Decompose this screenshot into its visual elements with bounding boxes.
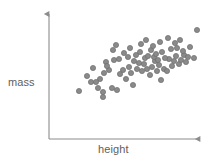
scatter-point [93,79,98,84]
scatter-point [110,47,115,52]
scatter-point [88,79,93,84]
scatter-point [109,85,114,90]
scatter-point [134,66,139,71]
scatter-point [171,58,176,63]
scatter-point [173,53,178,58]
scatter-point [95,85,100,90]
scatter-point [123,76,128,81]
scatter-point [154,68,159,73]
scatter-point [114,87,119,92]
scatter-point [183,59,188,64]
scatter-point [149,64,154,69]
scatter-point [139,68,144,73]
scatter-point [131,58,136,63]
scatter-point [194,27,199,32]
scatter-point [162,55,167,60]
scatter-point [126,64,131,69]
scatter-point [125,54,130,59]
scatter-point [90,65,95,70]
scatter-point [128,70,133,75]
scatter-point [178,57,183,62]
scatter-point [104,63,109,68]
scatter-point [153,51,158,56]
scatter-point [130,82,135,87]
scatter-point [165,35,170,40]
scatter-point [168,46,173,51]
scatter-point [113,42,118,47]
scatter-point [121,50,126,55]
scatter-point [150,43,155,48]
scatter-point [147,72,152,77]
scatter-point [164,68,169,73]
scatter-point [76,88,81,93]
scatter-points [76,27,199,99]
scatter-point [159,49,164,54]
scatter-point [180,48,185,53]
scatter-point [84,73,89,78]
scatter-point [136,60,141,65]
scatter-point [174,45,179,50]
scatter-point [100,89,105,94]
scatter-point [144,66,149,71]
scatter-point [138,41,143,46]
scatter-point [127,45,132,50]
scatter-point [155,57,160,62]
scatter-point [100,94,105,99]
scatter-point [187,44,192,49]
x-axis-label: height [98,143,129,155]
scatter-point [120,67,125,72]
scatter-point [143,37,148,42]
scatter-point [172,40,177,45]
scatter-point [185,54,190,59]
scatter-point [116,56,121,61]
scatter-point [141,61,146,66]
scatter-point [111,57,116,62]
scatter-plot-figure: mass height [0,0,213,167]
scatter-point [156,62,161,67]
y-axis-label: mass [8,76,35,88]
scatter-point [145,53,150,58]
scatter-point [191,55,196,60]
scatter-point [169,63,174,68]
scatter-point [137,49,142,54]
scatter-point [101,70,106,75]
scatter-point [177,37,182,42]
scatter-point [157,39,162,44]
scatter-point [158,77,163,82]
